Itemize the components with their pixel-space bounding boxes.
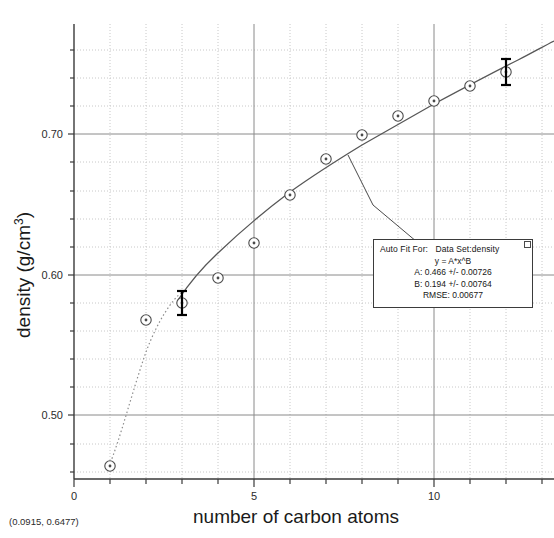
y-axis-title-tail: ) (13, 212, 34, 218)
chart-plot-area: 0.50 0.60 0.70 0 5 10 number of carbon a… (0, 0, 554, 538)
data-point[interactable] (393, 111, 403, 121)
fit-title-prefix: Auto Fit For: (380, 244, 428, 254)
fit-param-a: A: 0.466 +/- 0.00726 (380, 267, 526, 279)
data-point[interactable] (141, 315, 151, 325)
fit-equation: y = A*x^B (380, 256, 526, 268)
fit-param-b: B: 0.194 +/- 0.00764 (380, 279, 526, 291)
data-point[interactable] (285, 190, 295, 200)
x-axis-ticks (74, 479, 542, 487)
x-axis-title: number of carbon atoms (193, 506, 399, 527)
fit-title-dataset: Data Set:density (435, 244, 499, 254)
data-point[interactable] (249, 238, 259, 248)
data-point[interactable] (321, 154, 331, 164)
data-point[interactable] (213, 273, 223, 283)
annotation-leader-line (348, 155, 423, 247)
resize-handle-icon[interactable] (524, 241, 531, 248)
fit-title-line: Auto Fit For: Data Set:density (380, 244, 526, 256)
fit-rmse: RMSE: 0.00677 (380, 290, 526, 302)
y-axis-title-group: density (g/cm3) (12, 212, 34, 338)
y-axis-title: density (g/cm (13, 225, 34, 338)
data-point[interactable] (357, 130, 367, 140)
data-point[interactable] (105, 461, 115, 471)
y-tick-label-2: 0.70 (42, 128, 63, 140)
x-tick-label-1: 5 (251, 490, 257, 502)
svg-text:density (g/cm3): density (g/cm3) (12, 212, 34, 338)
data-point[interactable] (429, 96, 439, 106)
y-tick-label-1: 0.60 (42, 269, 63, 281)
y-tick-label-0: 0.50 (42, 409, 63, 421)
auto-fit-annotation-box[interactable]: Auto Fit For: Data Set:density y = A*x^B… (373, 239, 533, 308)
x-tick-label-2: 10 (428, 490, 440, 502)
y-axis-ticks (68, 50, 74, 472)
data-point[interactable] (465, 81, 475, 91)
coordinate-readout: (0.0915, 0.6477) (9, 516, 79, 527)
x-tick-label-0: 0 (71, 490, 77, 502)
